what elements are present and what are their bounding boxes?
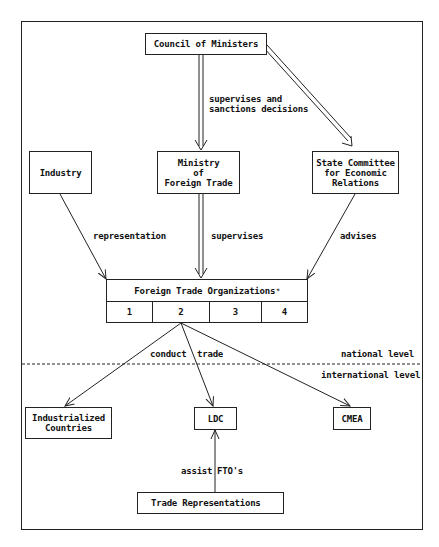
- node-state-committee: State Committee for Economic Relations: [312, 151, 399, 194]
- label-conduct: conduct: [150, 349, 187, 359]
- node-council-of-ministers: Council of Ministers: [145, 33, 267, 55]
- label-supervises-and-sanctions: supervises and sanctions decisions: [209, 94, 308, 114]
- fto-cell-3: 3: [210, 302, 262, 322]
- node-trade-representations: Trade Representations: [137, 492, 284, 514]
- label-supervises: supervises: [211, 231, 263, 241]
- label-trade: trade: [197, 349, 223, 359]
- fto-cell-1: 1: [107, 302, 153, 322]
- node-foreign-trade-organizations: Foreign Trade Organizations* 1 2 3 4: [106, 279, 308, 323]
- fto-cells: 1 2 3 4: [107, 302, 307, 322]
- arrow-council-to-ministry: [195, 54, 207, 150]
- fto-footnote-mark: *: [276, 287, 279, 294]
- label-representation: representation: [93, 231, 166, 241]
- fto-title-text: Foreign Trade Organizations: [134, 286, 275, 296]
- fto-cell-4: 4: [262, 302, 307, 322]
- node-industrialized-countries: Industrialized Countries: [25, 407, 112, 439]
- fto-cell-2: 2: [153, 302, 210, 322]
- connector-lines: [0, 0, 439, 547]
- label-assist: assist: [181, 466, 212, 476]
- fto-title: Foreign Trade Organizations*: [107, 280, 307, 302]
- node-industry: Industry: [29, 151, 92, 194]
- label-national-level: national level: [341, 349, 414, 359]
- arrow-ministry-to-fto: [195, 194, 207, 278]
- label-ftos: FTO's: [217, 466, 243, 476]
- node-ministry-of-foreign-trade: Ministry of Foreign Trade: [157, 151, 240, 194]
- label-international-level: international level: [321, 370, 420, 380]
- node-ldc: LDC: [194, 407, 237, 430]
- label-advises: advises: [340, 231, 377, 241]
- node-cmea: CMEA: [333, 407, 371, 430]
